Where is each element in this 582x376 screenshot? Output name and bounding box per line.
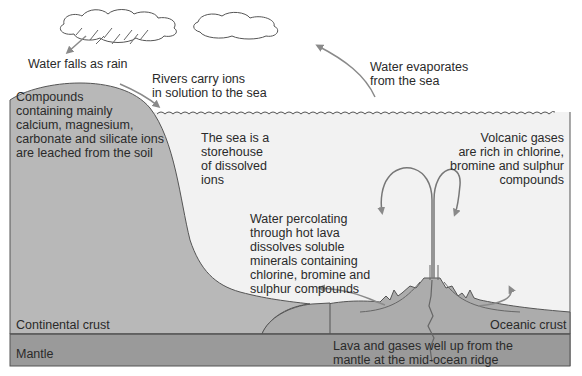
cloud-icon — [60, 10, 176, 43]
label-evaporation: Water evaporates from the sea — [370, 60, 468, 88]
label-leaching: Compounds containing mainly calcium, mag… — [16, 90, 164, 160]
label-storehouse: The sea is a storehouse of dissolved ion… — [201, 131, 269, 187]
label-mantle: Mantle — [16, 347, 54, 361]
label-percolating: Water percolating through hot lava disso… — [250, 212, 370, 296]
label-rain: Water falls as rain — [28, 57, 128, 71]
rain-arrow — [68, 36, 86, 52]
evaporation-arrow — [318, 46, 375, 97]
label-rivers: Rivers carry ions in solution to the sea — [152, 72, 267, 100]
label-oceanic-crust: Oceanic crust — [490, 318, 566, 332]
label-volcanic-gases: Volcanic gases are rich in chlorine, bro… — [440, 131, 564, 187]
label-lava: Lava and gases well up from the mantle a… — [333, 339, 513, 367]
cloud-icon-right — [194, 12, 278, 39]
label-continental-crust: Continental crust — [16, 318, 110, 332]
